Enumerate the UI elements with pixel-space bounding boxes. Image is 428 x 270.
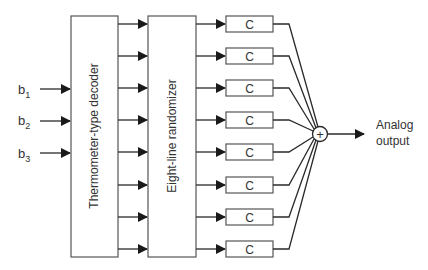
decoder-to-randomizer-lines	[118, 24, 147, 249]
randomizer-to-c-lines	[196, 24, 225, 249]
c-element-5: C	[226, 144, 273, 160]
svg-text:C: C	[245, 179, 254, 193]
input-b3-label: b3	[18, 146, 30, 164]
svg-text:C: C	[245, 114, 254, 128]
svg-text:C: C	[245, 146, 254, 160]
svg-text:C: C	[245, 50, 254, 64]
output-label-line1: Analog	[376, 118, 413, 132]
randomizer-label: Eight-line randomizer	[165, 79, 179, 192]
dac-block-diagram: b1 b2 b3 Thermometer-type decoder Eight-…	[0, 0, 428, 270]
decoder-label: Thermometer-type decoder	[87, 63, 101, 208]
input-b2-label: b2	[18, 113, 30, 131]
plus-icon: +	[316, 127, 324, 142]
c-element-2: C	[226, 48, 273, 64]
c-element-3: C	[226, 80, 273, 96]
svg-text:C: C	[245, 82, 254, 96]
input-b1-label: b1	[18, 82, 30, 100]
input-b3: b3	[18, 146, 70, 164]
svg-text:C: C	[245, 243, 254, 257]
input-b2: b2	[18, 113, 70, 131]
c-to-sum-lines	[273, 24, 318, 249]
svg-text:C: C	[245, 211, 254, 225]
output-label-line2: output	[376, 134, 410, 148]
svg-text:C: C	[245, 18, 254, 32]
c-element-1: C	[226, 16, 273, 32]
summing-junction: +	[313, 127, 328, 142]
c-element-4: C	[226, 112, 273, 128]
c-element-8: C	[226, 241, 273, 257]
input-b1: b1	[18, 82, 70, 100]
c-element-6: C	[226, 177, 273, 193]
c-element-7: C	[226, 209, 273, 225]
